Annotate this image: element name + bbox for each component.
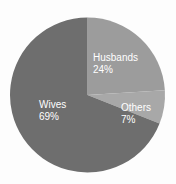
slice-label-wives-name: Wives [39,99,66,111]
pie-chart-svg [0,0,176,184]
slice-label-husbands-percent: 24% [93,64,138,76]
slice-label-others-name: Others [121,102,151,114]
slice-label-others-percent: 7% [121,114,151,126]
pie-chart: Wives 69% Husbands 24% Others 7% [0,0,176,184]
slice-label-others: Others 7% [121,102,151,125]
pie-slice-group [10,18,165,173]
slice-label-husbands: Husbands 24% [93,52,138,75]
slice-label-husbands-name: Husbands [93,52,138,64]
slice-label-wives-percent: 69% [39,111,66,123]
slice-label-wives: Wives 69% [39,99,66,122]
